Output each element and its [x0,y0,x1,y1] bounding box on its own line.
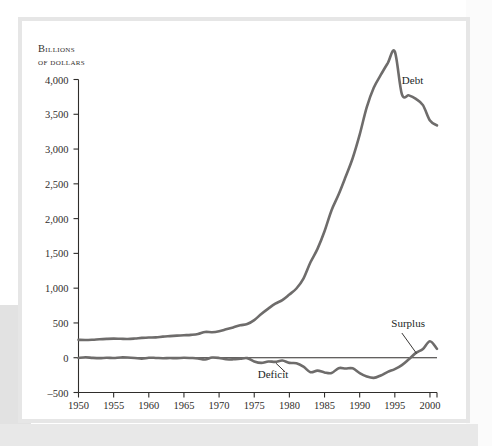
x-tick-label: 1995 [375,400,415,411]
y-tick-label: –500 [27,387,69,398]
x-tick-label: 1970 [199,400,239,411]
annotation-surplus: Surplus [391,317,425,329]
y-tick-label: 1,500 [27,248,69,259]
surplus-leader-line [402,333,417,354]
x-tick-label: 1955 [94,400,134,411]
x-tick-label: 1980 [269,400,309,411]
x-tick-label: 1960 [129,400,169,411]
x-tick-label: 1950 [59,400,99,411]
y-tick-label: 3,500 [27,109,69,120]
x-tick-label: 1965 [164,400,204,411]
y-tick-label: 0 [27,352,69,363]
debt-deficit-chart: Billions of dollars 4,0003,5003,0002,500… [0,0,492,446]
y-tick-label: 2,000 [27,213,69,224]
x-tick-label: 1975 [234,400,274,411]
x-tick-label: 2000 [410,400,450,411]
annotation-debt: Debt [402,74,423,86]
y-tick-label: 1,000 [27,283,69,294]
x-tick-label: 1990 [340,400,380,411]
x-tick-label: 1985 [305,400,345,411]
y-tick-label: 4,000 [27,74,69,85]
series-line-debt [79,50,438,340]
y-tick-label: 500 [27,317,69,328]
y-tick-label: 2,500 [27,178,69,189]
annotation-deficit: Deficit [258,368,289,380]
plot-canvas [0,0,492,446]
y-tick-label: 3,000 [27,144,69,155]
